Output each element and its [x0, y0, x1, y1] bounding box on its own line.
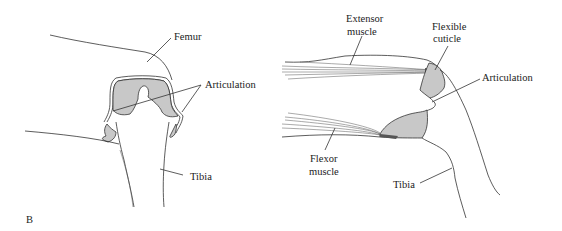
tibia-right-edge [163, 122, 169, 207]
articulation-leader-line-2 [182, 85, 201, 112]
right-lower-cuticle-shading [170, 124, 177, 137]
flexible-cuticle-leader-line [435, 46, 448, 70]
leg-joint-diagram: Femur Articulation Tibia [0, 0, 562, 231]
flexor-muscle-fibers [282, 113, 380, 135]
flexible-cuticle-label-line1: Flexible [432, 21, 467, 32]
tibia-inner-edge [120, 150, 133, 207]
flexor-label-line2: muscle [309, 166, 339, 177]
extensor-label-line2: muscle [347, 26, 377, 37]
right-tibia-label: Tibia [393, 179, 415, 190]
right-articulation-label: Articulation [482, 72, 533, 83]
upper-flexible-cuticle-shading [420, 63, 445, 98]
extensor-label-line1: Extensor [346, 13, 384, 24]
flexor-leader-line [325, 128, 335, 150]
right-tibia-outer-edge [440, 70, 500, 195]
left-lower-cuticle-shading [102, 124, 116, 142]
articulation-notch [424, 98, 435, 112]
flexible-cuticle-label-line2: cuticle [433, 33, 461, 44]
left-tibia-label: Tibia [190, 171, 212, 182]
panel-label: B [26, 214, 33, 225]
femur-label: Femur [174, 31, 202, 42]
left-articulation-label: Articulation [205, 79, 256, 90]
right-tibia-inner-edge [422, 138, 466, 218]
right-tibia-leader-line [420, 168, 452, 183]
left-joint-diagram: Femur Articulation Tibia [25, 31, 256, 207]
extensor-leader-line [350, 36, 362, 65]
femur-condyle-shading [113, 79, 178, 117]
extensor-muscle-fibers [282, 62, 433, 79]
lower-flexible-cuticle-shading [380, 110, 427, 138]
right-joint-diagram: Extensor muscle Flexible cuticle Articul… [282, 13, 533, 218]
femur-outline [50, 35, 172, 80]
flexor-label-line1: Flexor [310, 153, 338, 164]
